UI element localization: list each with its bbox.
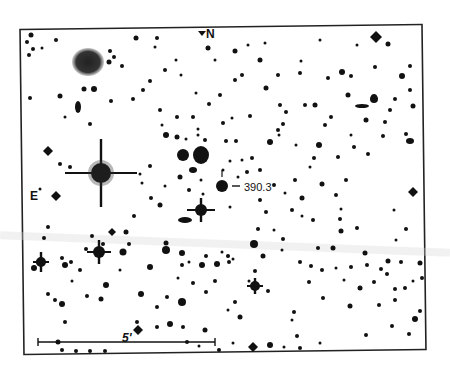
star [412,280,415,283]
diamond-star [408,187,418,197]
star [331,246,336,251]
star [60,348,64,352]
star [84,247,88,251]
star [187,188,191,192]
star [63,320,67,324]
star [232,342,235,345]
star [261,254,266,259]
star [124,230,129,235]
star-blob [406,138,414,144]
star [178,175,183,180]
diamond-star [108,228,116,236]
star [163,68,167,72]
star [178,298,186,306]
star [399,260,403,264]
star [158,203,163,208]
star [248,280,251,283]
star [207,102,211,106]
star [253,269,257,273]
star [175,135,180,140]
star-blob [189,167,197,173]
star [155,325,159,329]
star [221,251,224,254]
star [120,249,127,256]
star [42,236,46,240]
star [46,292,50,296]
star [258,58,263,63]
star [300,60,303,63]
star [349,74,353,78]
star [107,60,112,65]
star [158,108,162,112]
star [58,94,63,99]
star [119,269,122,272]
star [264,86,269,91]
star [248,114,252,118]
star [309,264,313,268]
star [366,152,370,156]
star [88,349,92,353]
star [267,139,273,145]
star [393,287,397,291]
star [338,217,342,221]
star [175,59,178,62]
finder-chart: N E 390.3 5' [0,0,450,372]
star [25,40,29,44]
star [180,74,183,77]
star [256,227,260,231]
star [188,261,191,264]
star [383,120,387,124]
star [241,159,244,162]
diamond-star [248,342,258,352]
star [161,124,164,127]
star [395,239,398,242]
star [164,185,167,188]
star [293,178,297,182]
star [386,259,391,264]
star [71,280,74,283]
star [31,265,37,271]
diamond-star [51,191,61,201]
star [90,234,94,238]
star [58,162,62,166]
star [229,160,232,163]
bright-star [87,240,111,264]
star [213,279,217,283]
star [340,208,343,211]
star [227,309,230,312]
star [418,309,422,313]
star [344,178,348,182]
star [390,324,394,328]
star [284,110,288,114]
star [377,303,381,307]
star [320,268,324,272]
star [41,47,44,50]
star [180,263,184,267]
star-blob [355,104,369,108]
star [336,155,340,159]
star [412,316,418,322]
star [403,286,407,290]
star [197,128,200,131]
star [278,134,281,137]
star [221,121,225,125]
star [139,173,142,176]
star [352,145,356,149]
star [326,76,330,80]
star [39,188,42,191]
star [59,301,65,307]
star [74,349,78,353]
star [131,97,135,101]
star [319,39,322,42]
star [214,261,220,267]
star [120,64,124,68]
star [191,115,195,119]
star [339,229,344,234]
star [284,192,287,195]
scale-label: 5' [122,331,133,345]
star [112,55,116,59]
target-star [216,170,240,192]
star [195,92,198,95]
star [408,88,412,92]
star [238,315,243,320]
